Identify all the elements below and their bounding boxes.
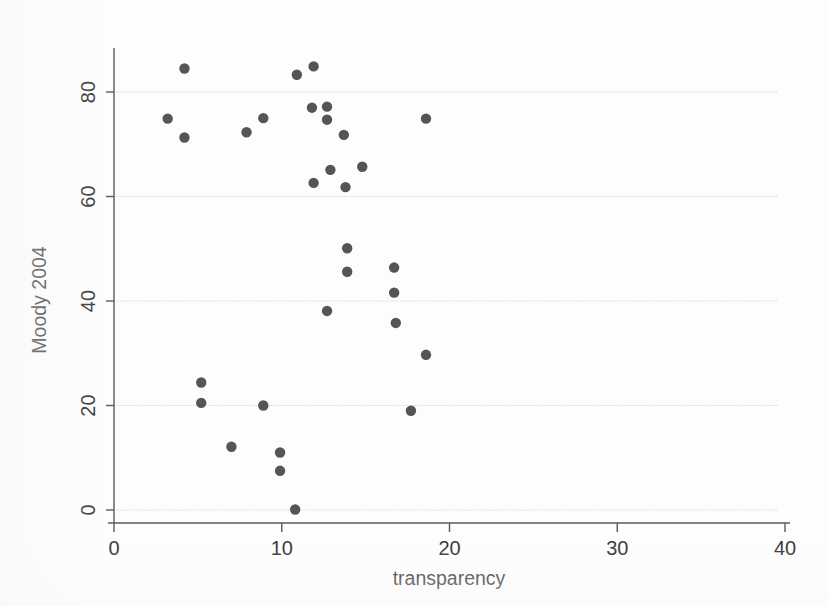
data-point: [342, 243, 352, 253]
data-point: [322, 306, 332, 316]
data-point: [339, 130, 349, 140]
plot-canvas: 020406080010203040 transparency Moody 20…: [0, 0, 829, 606]
y-tick-label-20: 20: [77, 394, 99, 416]
data-point: [308, 178, 318, 188]
y-tick-label-80: 80: [77, 81, 99, 103]
data-point: [421, 113, 431, 123]
x-tick-label-20: 20: [438, 537, 460, 559]
data-point: [340, 182, 350, 192]
data-point: [162, 113, 172, 123]
x-tick-label-40: 40: [774, 537, 796, 559]
data-point: [196, 377, 206, 387]
data-point: [389, 262, 399, 272]
data-points-group: [162, 61, 431, 514]
data-point: [391, 318, 401, 328]
ticks-group: [106, 92, 785, 532]
data-point: [421, 350, 431, 360]
y-axis-title: Moody 2004: [28, 246, 50, 353]
x-tick-label-0: 0: [108, 537, 119, 559]
x-tick-label-30: 30: [606, 537, 628, 559]
tick-labels-group: 020406080010203040: [77, 81, 796, 559]
data-point: [275, 466, 285, 476]
data-point: [226, 442, 236, 452]
data-point: [307, 102, 317, 112]
y-tick-label-0: 0: [77, 504, 99, 515]
data-point: [322, 114, 332, 124]
scatter-plot-figure: 020406080010203040 transparency Moody 20…: [0, 0, 829, 606]
data-point: [325, 165, 335, 175]
data-point: [179, 63, 189, 73]
y-tick-label-60: 60: [77, 185, 99, 207]
data-point: [406, 406, 416, 416]
y-tick-label-40: 40: [77, 290, 99, 312]
data-point: [290, 504, 300, 514]
gridlines-group: [114, 92, 778, 510]
data-point: [258, 400, 268, 410]
data-point: [292, 70, 302, 80]
x-tick-label-10: 10: [271, 537, 293, 559]
data-point: [342, 267, 352, 277]
data-point: [179, 132, 189, 142]
data-point: [322, 101, 332, 111]
data-point: [275, 447, 285, 457]
data-point: [357, 162, 367, 172]
data-point: [389, 287, 399, 297]
axes-group: [108, 48, 790, 523]
data-point: [258, 113, 268, 123]
data-point: [241, 127, 251, 137]
data-point: [196, 398, 206, 408]
x-axis-title: transparency: [393, 567, 506, 589]
data-point: [308, 61, 318, 71]
